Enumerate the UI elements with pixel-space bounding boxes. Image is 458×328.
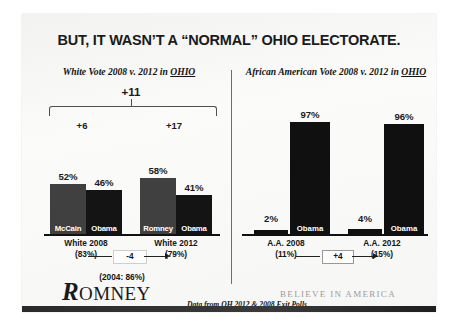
page-title: BUT, IT WASN’T A “NORMAL” OHIO ELECTORAT… — [22, 32, 436, 48]
bar-value-romney: 58% — [140, 165, 176, 176]
bar-group-2012: 58% Romney 41% Obama — [140, 138, 212, 234]
african-american-vote-chart: 2% 97% Obama 4% 96% Obama A.A. 2008 (11 — [238, 80, 434, 290]
swing-brace — [49, 106, 217, 116]
bar-value-aa-rep-2012: 4% — [342, 213, 388, 224]
margin-2012-label: +17 — [144, 120, 204, 131]
romney-logo-r: R — [62, 278, 79, 305]
bar-aa-obama-2008: Obama — [290, 122, 330, 234]
bar-value-obama-2012: 41% — [176, 182, 212, 193]
bar-label-aa-obama-2012: Obama — [391, 224, 417, 235]
bar-value-mccain: 52% — [50, 171, 86, 182]
right-panel-heading: African American Vote 2008 v. 2012 in OH… — [238, 66, 434, 77]
axis-label-aa-2008-line1: A.A. 2008 — [246, 238, 326, 249]
left-panel-heading: White Vote 2008 v. 2012 in OHIO — [34, 66, 224, 77]
bar-value-aa-rep-2008: 2% — [248, 213, 294, 224]
axis-label-aa-2008-line2: (11%) — [246, 249, 326, 260]
bar-romney: Romney — [140, 178, 176, 234]
bar-label-mccain: McCain — [55, 224, 82, 235]
swing-annotation: +11 — [34, 86, 228, 98]
axis-label-aa-2012-line2: (15%) — [342, 249, 422, 260]
bar-value-aa-obama-2012: 96% — [384, 111, 424, 122]
left-axis-line — [44, 234, 220, 236]
campaign-tagline: BELIEVE IN AMERICA — [258, 289, 418, 299]
axis-label-aa-2012-line1: A.A. 2012 — [342, 238, 422, 249]
axis-label-white-2012-line2: (79%) — [138, 249, 214, 260]
bar-obama-2012: Obama — [176, 195, 212, 234]
left-heading-state: OHIO — [170, 66, 195, 77]
bar-aa-obama-2012: Obama — [384, 124, 424, 234]
bar-label-obama-2008: Obama — [91, 224, 116, 235]
panel-divider — [231, 70, 232, 284]
bar-value-obama-2008: 46% — [86, 177, 122, 188]
axis-label-white-2012: White 2012 (79%) — [138, 238, 214, 260]
bottom-bar — [22, 306, 436, 312]
bar-mccain: McCain — [50, 184, 86, 234]
note-2004: (2004: 86%) — [62, 272, 182, 282]
bar-group-aa-2012: 4% 96% Obama — [342, 98, 428, 234]
white-vote-chart: +11 +6 +17 52% McCain 46% Obama 58% Romn… — [34, 80, 228, 290]
axis-label-aa-2012: A.A. 2012 (15%) — [342, 238, 422, 260]
bar-group-aa-2008: 2% 97% Obama — [248, 98, 334, 234]
axis-label-white-2012-line1: White 2012 — [138, 238, 214, 249]
right-axis-line — [242, 234, 428, 236]
margin-2008-label: +6 — [52, 120, 112, 131]
bar-label-aa-obama-2008: Obama — [297, 224, 323, 235]
left-heading-text: White Vote 2008 v. 2012 in — [63, 66, 171, 77]
right-bars: 2% 97% Obama 4% 96% Obama — [238, 98, 434, 234]
right-heading-state: OHIO — [401, 66, 426, 77]
bar-value-aa-obama-2008: 97% — [290, 109, 330, 120]
share-connector-left — [88, 256, 112, 257]
bar-group-2008: 52% McCain 46% Obama — [50, 138, 122, 234]
bar-label-obama-2012: Obama — [181, 224, 206, 235]
bar-obama-2008: Obama — [86, 190, 122, 234]
aa-share-connector-left — [296, 256, 320, 257]
axis-label-white-2008-line1: White 2008 — [48, 238, 124, 249]
right-axis-labels: A.A. 2008 (11%) +4 A.A. 2012 (15%) — [238, 238, 434, 272]
left-axis-labels: White 2008 (83%) -4 White 2012 (79%) — [34, 238, 228, 272]
right-heading-text: African American Vote 2008 v. 2012 in — [246, 66, 401, 77]
slide: BUT, IT WASN’T A “NORMAL” OHIO ELECTORAT… — [22, 14, 436, 312]
left-bars: 52% McCain 46% Obama 58% Romney 41% Obam… — [34, 138, 228, 234]
bar-label-romney: Romney — [143, 224, 173, 235]
